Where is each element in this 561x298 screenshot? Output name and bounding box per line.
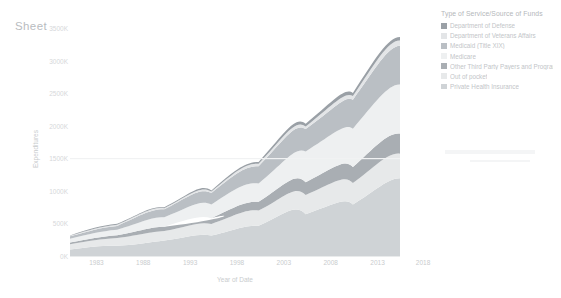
tableau-viz-canvas: Sheet 3500K 3000K 2500K 2000K 1500K 1000…: [0, 0, 561, 298]
x-axis: 1983 1988 1993 1998 2003 2008 2013 2018: [70, 256, 400, 270]
x-axis-tick: 2008: [323, 259, 337, 266]
legend-item-label: Private Health Insurance: [450, 83, 519, 90]
legend-item[interactable]: Private Health Insurance: [441, 82, 553, 92]
legend-item-label: Medicaid (Title XIX): [450, 42, 505, 49]
x-axis-tick: 2003: [277, 259, 291, 266]
y-axis-tick: 1000K: [49, 187, 68, 194]
stacked-area-chart[interactable]: [70, 28, 400, 256]
ghost-strip-left: [470, 160, 530, 162]
y-axis-tick: 3500K: [49, 25, 68, 32]
legend-swatch-icon: [441, 33, 447, 39]
legend-swatch-icon: [441, 53, 447, 59]
legend-swatch-icon: [441, 43, 447, 49]
legend-item[interactable]: Department of Veterans Affairs: [441, 31, 553, 41]
legend-item-label: Department of Veterans Affairs: [450, 32, 536, 39]
legend-swatch-icon: [441, 73, 447, 79]
legend-title: Type of Service/Source of Funds: [441, 10, 553, 17]
legend: Type of Service/Source of Funds Departme…: [441, 10, 553, 92]
legend-item[interactable]: Out of pocket: [441, 71, 553, 81]
y-axis: 3500K 3000K 2500K 2000K 1500K 1000K 500K…: [36, 28, 68, 256]
legend-swatch-icon: [441, 23, 447, 29]
legend-item[interactable]: Medicaid (Title XIX): [441, 41, 553, 51]
x-axis-tick: 1993: [183, 259, 197, 266]
y-axis-tick: 3000K: [49, 57, 68, 64]
y-axis-tick: 0K: [60, 253, 68, 260]
y-axis-tick: 2000K: [49, 122, 68, 129]
x-axis-tick: 2013: [370, 259, 384, 266]
y-axis-tick: 1500K: [49, 155, 68, 162]
ghost-strip-right: [445, 150, 535, 154]
legend-item[interactable]: Medicare: [441, 51, 553, 61]
chart-plot-area[interactable]: [70, 28, 400, 256]
x-axis-tick: 1983: [89, 259, 103, 266]
legend-item-label: Department of Defense: [450, 22, 515, 29]
legend-item-label: Medicare: [450, 53, 476, 60]
legend-swatch-icon: [441, 63, 447, 69]
y-axis-tick: 500K: [53, 220, 68, 227]
legend-swatch-icon: [441, 84, 447, 90]
highlight-band: [70, 158, 400, 159]
legend-item-label: Other Third Party Payers and Programs: [450, 63, 553, 70]
x-axis-tick: 1988: [136, 259, 150, 266]
legend-item[interactable]: Other Third Party Payers and Programs: [441, 61, 553, 71]
y-axis-tick: 2500K: [49, 90, 68, 97]
y-axis-title: Expenditures: [32, 130, 39, 168]
x-axis-tick: 1998: [230, 259, 244, 266]
legend-item-label: Out of pocket: [450, 73, 487, 80]
x-axis-tick: 2018: [416, 259, 430, 266]
x-axis-title: Year of Date: [70, 276, 400, 283]
legend-item[interactable]: Department of Defense: [441, 21, 553, 31]
